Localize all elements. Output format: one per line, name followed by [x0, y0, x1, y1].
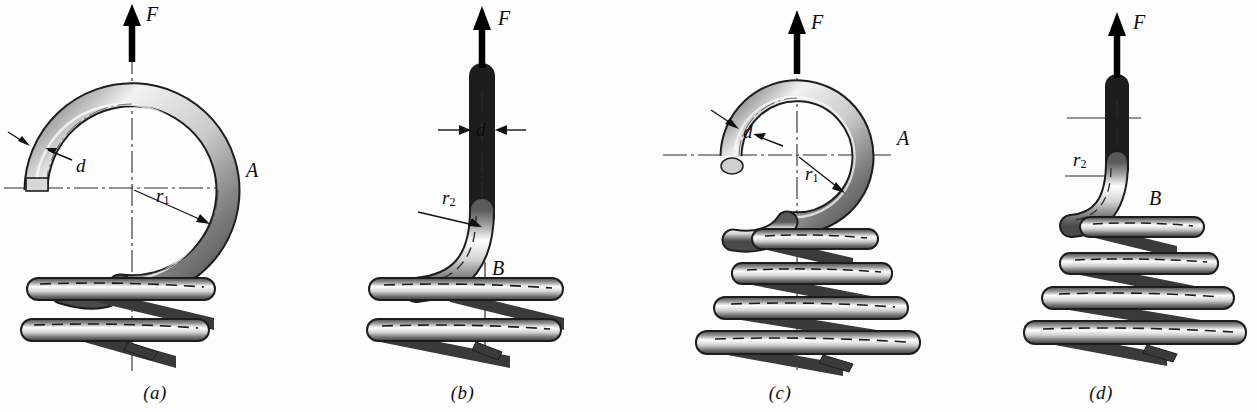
hook-loop: [26, 95, 228, 287]
bend-radius-label-d: r2: [1073, 150, 1086, 170]
coil-2: [20, 318, 210, 342]
force-label-c: F: [811, 12, 823, 32]
spring-body: [20, 277, 216, 368]
coil-1: [751, 228, 879, 250]
mean-radius-label-c: r1: [805, 164, 818, 184]
coil-2: [731, 262, 893, 285]
coil-1: [368, 277, 564, 301]
force-label-d: F: [1133, 12, 1145, 32]
force-arrow-c: [788, 10, 806, 74]
panel-c-drawing: [615, 0, 945, 412]
bend-radius-sub-d: 2: [1080, 157, 1086, 171]
bend-radius-label-b: r2: [442, 188, 455, 208]
spring-body-d: [1023, 216, 1247, 366]
bend-radius-sub-b: 2: [449, 195, 455, 209]
wire-diameter-label-c: d: [743, 122, 753, 141]
coil-3: [1041, 286, 1235, 310]
coil-2: [366, 318, 562, 342]
mean-radius-label-a: r1: [156, 186, 169, 206]
force-label-b: F: [498, 8, 510, 28]
coil-4: [695, 330, 921, 355]
coil-1: [26, 277, 216, 301]
mean-radius-sub-a: 1: [163, 193, 169, 207]
panel-b: F d r2 B (b): [310, 0, 615, 412]
panel-c: F d A r1 (c): [615, 0, 945, 412]
panel-a: F d A r1 (a): [0, 0, 310, 412]
panel-caption-d: (d): [945, 382, 1257, 404]
section-a-label-c: A: [897, 128, 909, 148]
spring-body-b: [366, 277, 564, 368]
panel-caption-b: (b): [310, 382, 615, 404]
panel-a-drawing: [0, 0, 310, 412]
wire-diameter-label-b: d: [476, 120, 486, 139]
coil-3: [713, 296, 909, 320]
panel-caption-c: (c): [615, 382, 945, 404]
panel-b-drawing: [310, 0, 615, 412]
section-b-label: B: [492, 258, 504, 278]
force-arrow: [123, 4, 141, 62]
section-b-label-d: B: [1149, 188, 1161, 208]
wire-diameter-label-a: d: [76, 156, 86, 175]
mean-radius-leader: [134, 190, 210, 224]
section-a-label: A: [246, 160, 258, 180]
force-label-a: F: [146, 4, 158, 24]
force-arrow-b: [473, 6, 491, 68]
panel-caption-a: (a): [0, 382, 310, 404]
force-arrow-d: [1108, 12, 1126, 78]
coil-4: [1023, 320, 1247, 345]
coil-1: [1079, 216, 1205, 238]
mean-radius-sub-c: 1: [812, 171, 818, 185]
spring-hook-figure: F d A r1 (a): [0, 0, 1257, 412]
panel-d: F r2 B (d): [945, 0, 1257, 412]
panel-d-drawing: [945, 0, 1257, 412]
coil-2: [1059, 252, 1219, 275]
hook-loop-c: [721, 91, 863, 223]
